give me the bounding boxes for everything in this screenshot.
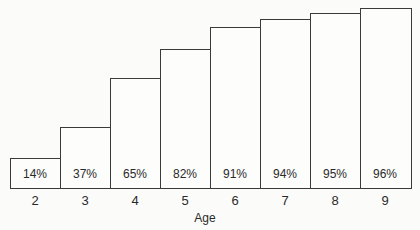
bar-age-7 [260, 19, 312, 189]
x-tick-label: 8 [310, 193, 360, 208]
value-label: 82% [160, 167, 210, 181]
value-label: 37% [60, 167, 110, 181]
x-tick-label: 7 [260, 193, 310, 208]
value-label: 96% [360, 167, 410, 181]
x-axis-title: Age [190, 211, 220, 225]
value-label: 95% [310, 167, 360, 181]
x-tick-label: 4 [110, 193, 160, 208]
x-tick-label: 2 [10, 193, 60, 208]
x-tick-label: 6 [210, 193, 260, 208]
bar-age-9 [360, 8, 412, 189]
value-label: 91% [210, 167, 260, 181]
value-label: 14% [10, 167, 60, 181]
value-label: 65% [110, 167, 160, 181]
x-tick-label: 3 [60, 193, 110, 208]
bar-age-6 [210, 27, 262, 189]
x-tick-label: 5 [160, 193, 210, 208]
value-label: 94% [260, 167, 310, 181]
x-tick-label: 9 [360, 193, 410, 208]
bar-chart: 14%237%365%482%591%694%795%896%9Age [0, 0, 420, 230]
x-axis-baseline [10, 188, 411, 189]
bar-age-8 [310, 13, 362, 189]
